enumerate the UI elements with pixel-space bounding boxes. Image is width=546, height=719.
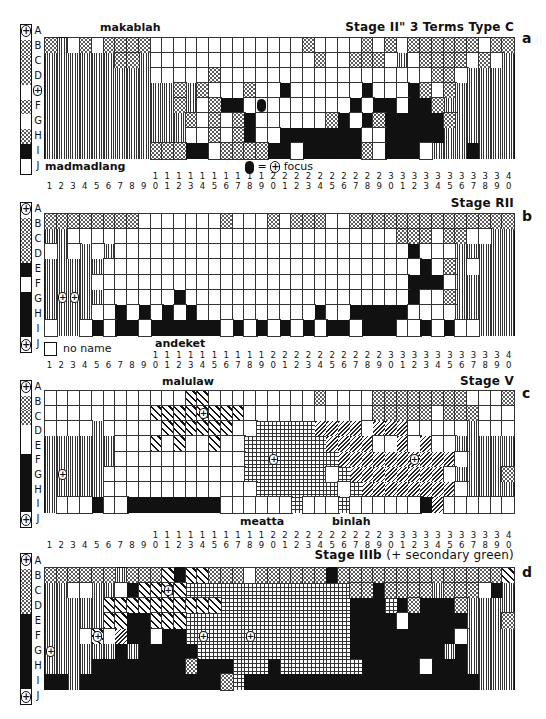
row-label: F: [33, 454, 43, 465]
panel-c-legend-bar: ++: [20, 380, 32, 528]
grid-cell: [174, 391, 186, 407]
grid-cell: [303, 391, 315, 407]
grid-cell: [326, 98, 338, 114]
term-label-andeket: andeket: [155, 337, 205, 350]
grid-cell: [350, 275, 362, 291]
grid-cell: [373, 644, 385, 660]
grid-cell: [92, 214, 104, 230]
grid-cell: [115, 406, 127, 422]
column-tick: 19: [255, 350, 267, 370]
grid-cell: [57, 214, 69, 230]
grid-cell: [432, 598, 444, 614]
grid-cell: [45, 113, 57, 129]
grid-cell: [303, 406, 315, 422]
panel-b-title: Stage RII: [451, 196, 514, 210]
grid-cell: [338, 229, 350, 245]
legend-segment: [21, 425, 31, 440]
grid-cell: [362, 644, 374, 660]
row-label: F: [33, 278, 43, 289]
grid-cell: [291, 38, 303, 54]
grid-cell: [162, 305, 174, 321]
grid-cell: [291, 406, 303, 422]
grid-cell: [174, 497, 186, 513]
grid-cell: [221, 467, 233, 483]
grid-cell: [244, 568, 256, 584]
grid-cell: [444, 568, 456, 584]
grid-cell: [303, 568, 315, 584]
grid-cell: [502, 68, 514, 84]
grid-cell: [280, 406, 292, 422]
grid-cell: [373, 497, 385, 513]
grid-cell: [115, 598, 127, 614]
grid-cell: [162, 436, 174, 452]
grid-cell: [291, 482, 303, 498]
grid-cell: [397, 68, 409, 84]
grid-cell: [256, 659, 268, 675]
row-label: I: [33, 498, 43, 509]
grid-cell: [479, 68, 491, 84]
grid-cell: [373, 613, 385, 629]
grid-cell: [221, 98, 233, 114]
row-label: D: [33, 425, 43, 436]
grid-cell: [92, 244, 104, 260]
grid-cell: [209, 406, 221, 422]
grid-cell: [455, 659, 467, 675]
grid-cell: [397, 613, 409, 629]
grid-cell: [80, 613, 92, 629]
grid-cell: [45, 290, 57, 306]
grid-cell: [479, 497, 491, 513]
grid-cell: [221, 68, 233, 84]
grid-cell: [467, 229, 479, 245]
grid-cell: [303, 674, 315, 690]
grid-cell: [151, 244, 163, 260]
panel-a-title: Stage II" 3 Terms Type C: [345, 20, 514, 34]
grid-cell: [385, 406, 397, 422]
grid-cell: [233, 214, 245, 230]
grid-cell: [57, 629, 69, 645]
column-tick: 10: [149, 171, 161, 191]
grid-cell: [467, 482, 479, 498]
grid-cell: [45, 482, 57, 498]
grid-cell: [479, 467, 491, 483]
grid-cell: [432, 436, 444, 452]
grid-cell: [444, 436, 456, 452]
grid-cell: [221, 214, 233, 230]
grid-cell: [338, 421, 350, 437]
grid-cell: [362, 143, 374, 159]
grid-cell: [174, 436, 186, 452]
grid-cell: [162, 421, 174, 437]
focus-plus-icon: +: [199, 631, 208, 642]
grid-cell: [92, 644, 104, 660]
grid-cell: [162, 53, 174, 69]
grid-cell: [291, 497, 303, 513]
grid-cell: [385, 113, 397, 129]
grid-cell: [303, 98, 315, 114]
grid-cell: [373, 98, 385, 114]
grid-cell: [197, 436, 209, 452]
grid-cell: [68, 113, 80, 129]
grid-cell: [432, 53, 444, 69]
column-tick: 21: [279, 171, 291, 191]
grid-cell: [408, 320, 420, 336]
grid-cell: [455, 98, 467, 114]
grid-cell: [397, 598, 409, 614]
grid-cell: [280, 598, 292, 614]
grid-cell: [362, 452, 374, 468]
grid-cell: [479, 113, 491, 129]
column-tick: 24: [314, 350, 326, 370]
grid-cell: [467, 38, 479, 54]
column-tick: 1: [44, 171, 56, 191]
column-tick: 36: [456, 171, 468, 191]
grid-cell: [139, 497, 151, 513]
column-tick: 20: [267, 171, 279, 191]
grid-cell: [80, 128, 92, 144]
grid-cell: [174, 598, 186, 614]
grid-cell: [221, 83, 233, 99]
grid-cell: [479, 275, 491, 291]
grid-cell: [57, 128, 69, 144]
legend-segment: [21, 100, 31, 115]
column-tick: 11: [161, 171, 173, 191]
grid-cell: [174, 421, 186, 437]
grid-cell: [420, 53, 432, 69]
grid-cell: [256, 644, 268, 660]
